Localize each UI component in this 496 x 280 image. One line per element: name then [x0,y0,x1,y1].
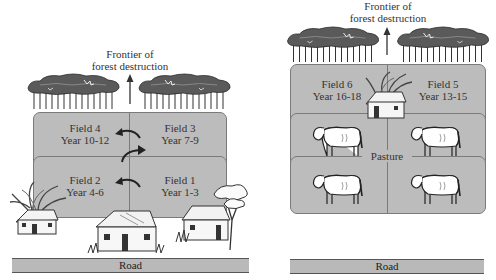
road: Road [12,258,249,273]
forest-tree-icon [137,72,232,110]
field-5-years: Year 13-15 [408,90,478,102]
frontier-label-line2: forest destruction [80,60,180,72]
burning-hut-icon [360,70,416,120]
forest-tree-icon [394,25,492,63]
left-panel: Frontier of forest destruction [0,0,250,280]
cow-icon [408,120,464,158]
frontier-label-line1: Frontier of [80,48,180,60]
field-3-name: Field 3 [145,122,215,134]
road: Road [290,259,484,274]
right-panel: Frontier of forest destruction [280,0,496,280]
field-4-label: Field 4 Year 10-12 [50,122,120,146]
field-4-name: Field 4 [50,122,120,134]
burning-hut-icon [8,180,70,236]
frontier-label-line1: Frontier of [338,0,438,12]
cow-icon [408,168,464,206]
frontier-label-line2: forest destruction [338,12,438,24]
field-5-name: Field 5 [408,78,478,90]
curved-arrow-icon [112,175,142,189]
forest-tree-icon [284,25,382,63]
up-arrow-icon [382,27,392,55]
hut-icon [86,205,166,255]
field-5-label: Field 5 Year 13-15 [408,78,478,102]
cow-icon [310,120,366,158]
up-arrow-icon [125,74,135,104]
field-3-years: Year 7-9 [145,134,215,146]
curved-arrow-icon [112,126,142,140]
frontier-label: Frontier of forest destruction [338,0,438,24]
frontier-label: Frontier of forest destruction [80,48,180,72]
curved-arrow-icon [118,145,148,163]
pasture-label: Pasture [362,150,412,162]
hut-with-tree-icon [176,180,250,252]
field-3-label: Field 3 Year 7-9 [145,122,215,146]
field-4-years: Year 10-12 [50,134,120,146]
forest-tree-icon [26,72,121,110]
cow-icon [310,168,366,206]
